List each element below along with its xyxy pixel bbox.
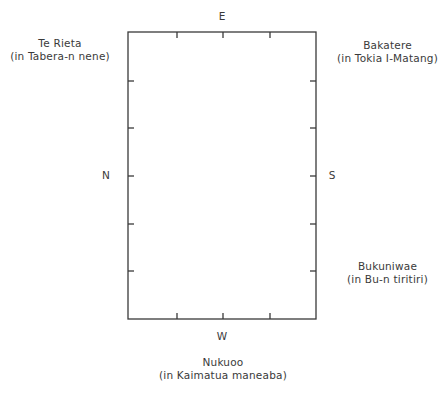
label-bukuniwae: Bukuniwae (in Bu-n tiritiri) <box>330 260 445 286</box>
label-bakatere-name: Bakatere <box>330 39 445 52</box>
direction-east-label: E <box>212 10 232 22</box>
label-nukuoo-location: (in Kaimatua maneaba) <box>152 369 294 382</box>
orientation-diagram: E W N S Te Rieta (in Tabera-n nene) Baka… <box>0 0 445 393</box>
direction-north-label: N <box>96 169 116 181</box>
direction-west-label: W <box>212 330 232 342</box>
label-nukuoo: Nukuoo (in Kaimatua maneaba) <box>152 356 294 382</box>
frame-border <box>128 32 316 319</box>
label-bukuniwae-location: (in Bu-n tiritiri) <box>330 273 445 286</box>
label-bakatere-location: (in Tokia I-Matang) <box>330 52 445 65</box>
label-bukuniwae-name: Bukuniwae <box>330 260 445 273</box>
label-te-rieta: Te Rieta (in Tabera-n nene) <box>0 37 120 63</box>
label-te-rieta-location: (in Tabera-n nene) <box>0 50 120 63</box>
label-nukuoo-name: Nukuoo <box>152 356 294 369</box>
label-te-rieta-name: Te Rieta <box>0 37 120 50</box>
label-bakatere: Bakatere (in Tokia I-Matang) <box>330 39 445 65</box>
direction-south-label: S <box>322 169 342 181</box>
